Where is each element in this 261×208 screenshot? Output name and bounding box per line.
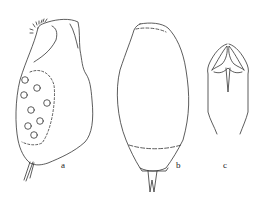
panel-label-c: c (223, 161, 227, 170)
specimen-a-drawing (16, 19, 93, 181)
specimen-c-trophi-drawing (208, 44, 249, 134)
figure-illustration (0, 0, 261, 208)
panel-label-a: a (61, 161, 65, 170)
panel-label-b: b (176, 161, 181, 170)
